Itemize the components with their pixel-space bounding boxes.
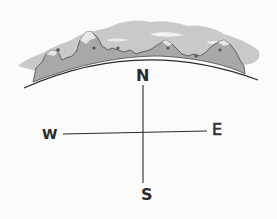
south-label: S [141, 187, 153, 203]
west-label: W [42, 127, 57, 141]
compass-illustration [0, 0, 277, 219]
north-label: N [136, 68, 149, 84]
east-label: E [212, 122, 222, 138]
west-east-line [63, 131, 207, 134]
